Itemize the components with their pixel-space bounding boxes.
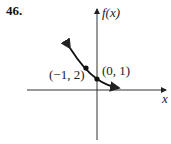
point-b-label: (0, 1) [102,63,130,78]
x-axis-label: x [161,91,168,106]
y-axis-label: f(x) [102,5,120,20]
point-0-1 [94,76,99,81]
graph: f(x) x (−1, 2) (0, 1) [0,0,171,144]
point-a-label: (−1, 2) [49,67,85,82]
